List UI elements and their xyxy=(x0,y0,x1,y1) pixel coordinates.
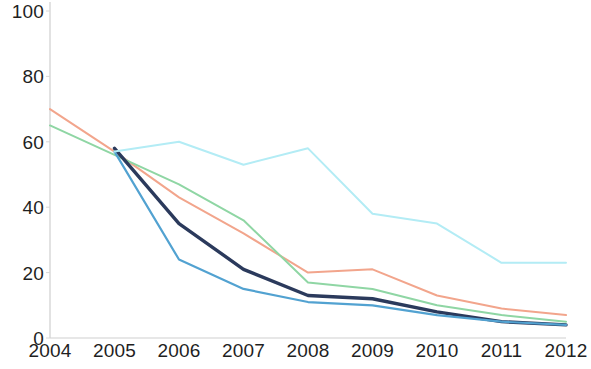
x-axis-tick-label: 2005 xyxy=(86,340,144,362)
series-line-salmon xyxy=(50,109,566,315)
series-line-green xyxy=(50,125,566,321)
x-axis-tick-label: 2009 xyxy=(344,340,402,362)
series-line-navy xyxy=(115,148,567,325)
x-axis-tick-label: 2007 xyxy=(215,340,273,362)
x-axis-tick-label: 2011 xyxy=(473,340,531,362)
series-line-cyan xyxy=(115,142,567,263)
x-axis-tick-label: 2012 xyxy=(537,340,591,362)
x-axis-tick-label: 2004 xyxy=(21,340,79,362)
x-axis-tick-label: 2006 xyxy=(150,340,208,362)
x-axis-labels: 200420052006200720082009201020112012 xyxy=(0,340,575,369)
x-axis-tick-label: 2008 xyxy=(279,340,337,362)
x-axis-tick-label: 2010 xyxy=(408,340,466,362)
series-line-blue xyxy=(115,152,567,325)
